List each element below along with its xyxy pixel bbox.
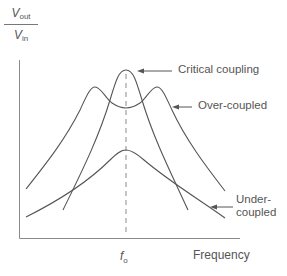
fo-tick-label: fo [120,250,128,266]
fo-subscript: o [123,256,127,265]
coupling-response-figure: Vout Vin Critical coupling Over-coupled … [0,0,287,276]
under-coupled-label-line1: Under- [236,193,271,205]
plot-canvas [0,0,287,276]
vout-subscript: out [19,12,30,21]
y-axis-label: Vout Vin [4,6,38,43]
critical-coupling-label: Critical coupling [178,63,259,76]
critical-arrow [137,69,172,74]
under-coupled-label-line2: coupled [236,206,276,218]
over-coupled-arrow [172,105,192,110]
over-coupled-label: Over-coupled [198,99,267,112]
under-coupled-label: Under- coupled [236,193,276,219]
vin-subscript: in [22,34,28,43]
x-axis-label: Frequency [193,249,250,263]
vin-symbol: V [14,28,22,42]
under-coupled-arrow [210,205,233,210]
fraction-bar [4,24,38,25]
